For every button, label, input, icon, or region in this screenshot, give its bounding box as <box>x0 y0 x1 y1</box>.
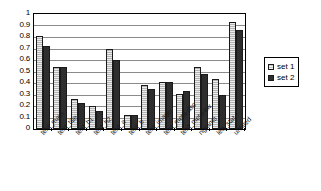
bar-group <box>87 14 105 129</box>
bar-group <box>227 14 245 129</box>
legend-swatch-icon <box>268 75 274 81</box>
y-tick-label: 0.1 <box>6 113 30 121</box>
y-tick-label: 0.7 <box>6 44 30 52</box>
legend-item[interactable]: set 2 <box>268 72 294 83</box>
bar-chart: 00.10.20.30.40.50.60.70.80.91 text_maint… <box>0 0 321 191</box>
bar-group <box>210 14 228 129</box>
plot-area <box>33 13 246 130</box>
bar-2[interactable] <box>43 46 50 129</box>
y-tick-label: 0.3 <box>6 90 30 98</box>
legend-label: set 2 <box>277 74 294 82</box>
bar-2[interactable] <box>113 60 120 129</box>
bar-group <box>139 14 157 129</box>
legend-item[interactable]: set 1 <box>268 61 294 72</box>
bar-group <box>69 14 87 129</box>
bar-group <box>104 14 122 129</box>
y-tick-label: 1 <box>6 9 30 17</box>
bar-1[interactable] <box>36 36 43 129</box>
y-tick-label: 0.4 <box>6 78 30 86</box>
bar-2[interactable] <box>236 30 243 129</box>
bars-layer <box>34 14 245 129</box>
y-tick-label: 0.9 <box>6 21 30 29</box>
y-tick-label: 0.5 <box>6 67 30 75</box>
y-tick-label: 0.6 <box>6 55 30 63</box>
bar-group <box>122 14 140 129</box>
y-tick-label: 0.2 <box>6 101 30 109</box>
bar-1[interactable] <box>229 22 236 129</box>
legend-label: set 1 <box>277 63 294 71</box>
bar-group <box>34 14 52 129</box>
chart-legend: set 1set 2 <box>264 57 299 87</box>
y-tick-label: 0 <box>6 124 30 132</box>
x-axis: text_maintext_titletext_h1text_h2text_at… <box>33 129 244 191</box>
legend-swatch-icon <box>268 64 274 70</box>
y-axis: 00.10.20.30.40.50.60.70.80.91 <box>6 7 30 134</box>
y-tick-label: 0.8 <box>6 32 30 40</box>
